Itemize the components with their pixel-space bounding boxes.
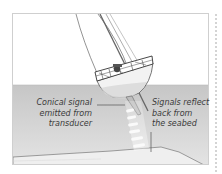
callout-line: the seabed <box>152 119 212 130</box>
page-edge-dotted-divider <box>215 14 217 172</box>
depth-sounder-illustration <box>13 14 209 165</box>
callout-line: Signals reflect <box>152 98 212 109</box>
callout-line: emitted from <box>30 109 92 120</box>
jib-sail-edge <box>76 14 97 73</box>
callout-line: back from <box>152 109 212 120</box>
callout-signal-emitted: Conical signal emitted from transducer <box>30 98 92 130</box>
diagram-frame <box>12 13 209 165</box>
callout-line: transducer <box>30 119 92 130</box>
callout-line: Conical signal <box>30 98 92 109</box>
callout-signal-reflected: Signals reflect back from the seabed <box>152 98 212 130</box>
